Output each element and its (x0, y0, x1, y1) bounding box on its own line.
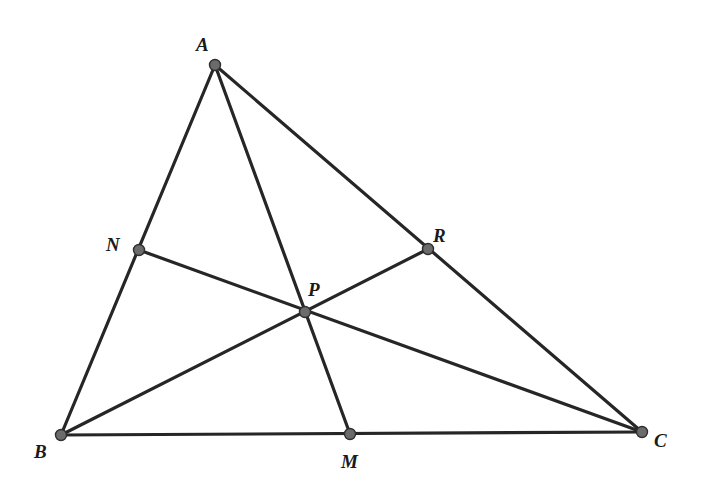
label-C: C (654, 430, 667, 451)
point-M (345, 429, 356, 440)
segments-group (61, 65, 642, 435)
point-B (56, 430, 67, 441)
label-R: R (432, 225, 446, 246)
label-M: M (340, 451, 359, 472)
label-B: B (33, 441, 47, 462)
triangle-diagram: ABCNRMP (0, 0, 704, 493)
label-P: P (307, 279, 320, 300)
point-N (134, 245, 145, 256)
point-R (423, 244, 434, 255)
cevian-BR (61, 249, 428, 435)
label-N: N (105, 234, 121, 255)
cevian-CN (139, 250, 642, 432)
point-C (637, 427, 648, 438)
label-A: A (195, 34, 209, 55)
cevian-AM (215, 65, 350, 434)
point-A (210, 60, 221, 71)
point-P (300, 307, 311, 318)
points-group (56, 60, 648, 441)
